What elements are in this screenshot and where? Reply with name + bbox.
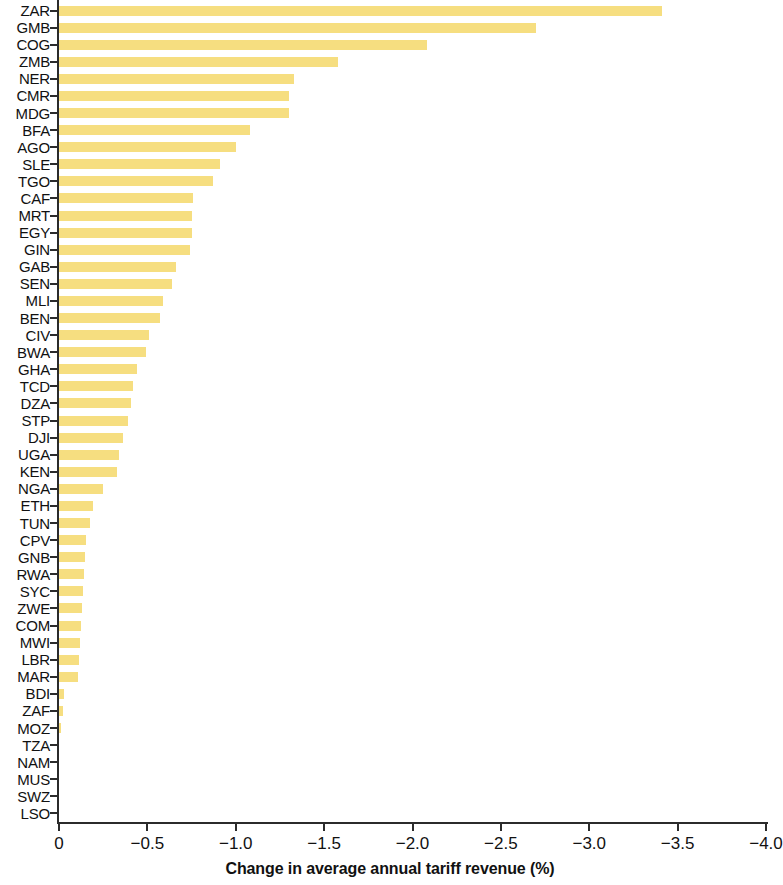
y-axis-label-zmb: ZMB — [4, 54, 50, 69]
y-tick-ken — [50, 471, 58, 473]
bar-mli — [0, 296, 780, 306]
x-axis-label-4: −2.0 — [396, 834, 430, 853]
y-tick-nga — [50, 488, 58, 490]
y-tick-tun — [50, 522, 58, 524]
bar-dza — [0, 398, 780, 408]
y-tick-gnb — [50, 556, 58, 558]
bar-fill — [59, 518, 90, 528]
y-tick-gha — [50, 368, 58, 370]
y-axis-label-cog: COG — [4, 37, 50, 52]
y-tick-dji — [50, 437, 58, 439]
bar-fill — [59, 125, 250, 135]
y-tick-mus — [50, 778, 58, 780]
bar-com — [0, 621, 780, 631]
x-axis-label-5: −2.5 — [484, 834, 518, 853]
y-axis-label-nam: NAM — [4, 755, 50, 770]
y-tick-stp — [50, 420, 58, 422]
bar-moz — [0, 723, 780, 733]
y-tick-tcd — [50, 385, 58, 387]
y-axis-label-tcd: TCD — [4, 379, 50, 394]
y-axis-label-bdi: BDI — [4, 686, 50, 701]
x-tick-6 — [588, 822, 590, 831]
y-tick-zmb — [50, 61, 58, 63]
y-axis-label-zaf: ZAF — [4, 703, 50, 718]
y-tick-swz — [50, 795, 58, 797]
bar-fill — [59, 211, 192, 221]
bar-fill — [59, 364, 137, 374]
y-axis-label-lbr: LBR — [4, 652, 50, 667]
bar-fill — [59, 586, 83, 596]
bar-caf — [0, 193, 780, 203]
x-tick-4 — [412, 822, 414, 831]
y-axis-label-gnb: GNB — [4, 550, 50, 565]
x-axis-label-1: −0.5 — [131, 834, 165, 853]
y-tick-lbr — [50, 659, 58, 661]
bar-fill — [59, 91, 289, 101]
y-axis-label-egy: EGY — [4, 225, 50, 240]
bar-fill — [59, 347, 146, 357]
bar-tgo — [0, 176, 780, 186]
bar-mwi — [0, 638, 780, 648]
bar-fill — [59, 23, 536, 33]
y-axis-label-ago: AGO — [4, 140, 50, 155]
x-tick-7 — [677, 822, 679, 831]
bar-gab — [0, 262, 780, 272]
x-axis-label-0: 0 — [54, 834, 63, 853]
y-tick-ago — [50, 146, 58, 148]
y-tick-zwe — [50, 607, 58, 609]
bar-sen — [0, 279, 780, 289]
bar-fill — [59, 159, 220, 169]
bar-fill — [59, 330, 149, 340]
x-tick-8 — [765, 822, 767, 831]
y-axis-label-zwe: ZWE — [4, 601, 50, 616]
bar-fill — [59, 723, 61, 733]
y-tick-mli — [50, 300, 58, 302]
y-tick-dza — [50, 402, 58, 404]
y-tick-com — [50, 625, 58, 627]
bar-mdg — [0, 108, 780, 118]
y-tick-mrt — [50, 215, 58, 217]
y-tick-gin — [50, 249, 58, 251]
y-axis-label-stp: STP — [4, 413, 50, 428]
bar-ago — [0, 142, 780, 152]
bar-cpv — [0, 535, 780, 545]
y-axis-label-cpv: CPV — [4, 533, 50, 548]
y-axis-label-mli: MLI — [4, 293, 50, 308]
bar-bdi — [0, 689, 780, 699]
y-tick-bwa — [50, 351, 58, 353]
bar-fill — [59, 416, 128, 426]
bar-tun — [0, 518, 780, 528]
y-axis-label-mrt: MRT — [4, 208, 50, 223]
y-axis-label-zar: ZAR — [4, 3, 50, 18]
y-axis-label-ben: BEN — [4, 311, 50, 326]
bar-ner — [0, 74, 780, 84]
bar-bwa — [0, 347, 780, 357]
x-axis-label-2: −1.0 — [219, 834, 253, 853]
bar-fill — [59, 279, 172, 289]
bar-fill — [59, 245, 190, 255]
x-axis-label-3: −1.5 — [307, 834, 341, 853]
bar-mus — [0, 774, 780, 784]
y-axis-label-gab: GAB — [4, 259, 50, 274]
bar-gin — [0, 245, 780, 255]
y-axis-label-gin: GIN — [4, 242, 50, 257]
y-tick-syc — [50, 590, 58, 592]
x-axis-title: Change in average annual tariff revenue … — [0, 860, 780, 878]
y-axis-label-gha: GHA — [4, 362, 50, 377]
y-tick-nam — [50, 761, 58, 763]
bar-zar — [0, 6, 780, 16]
bar-egy — [0, 228, 780, 238]
y-tick-cog — [50, 44, 58, 46]
bar-fill — [59, 569, 84, 579]
y-axis-label-tza: TZA — [4, 738, 50, 753]
y-axis-label-rwa: RWA — [4, 567, 50, 582]
y-tick-egy — [50, 232, 58, 234]
bar-fill — [59, 603, 82, 613]
bar-fill — [59, 552, 85, 562]
y-axis-label-mar: MAR — [4, 669, 50, 684]
bar-fill — [59, 672, 78, 682]
y-tick-tgo — [50, 180, 58, 182]
bar-fill — [59, 484, 103, 494]
y-axis-label-gmb: GMB — [4, 20, 50, 35]
y-axis-label-dza: DZA — [4, 396, 50, 411]
